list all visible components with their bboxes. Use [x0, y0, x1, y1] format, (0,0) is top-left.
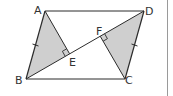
label-D: D	[145, 5, 153, 18]
label-A: A	[34, 4, 42, 17]
label-C: C	[125, 74, 133, 87]
triangle-CDF	[100, 11, 144, 79]
geometry-diagram: A B C D E F	[0, 0, 173, 96]
triangle-ABE	[26, 11, 70, 79]
label-F: F	[96, 25, 102, 38]
label-B: B	[15, 74, 23, 87]
label-E: E	[69, 56, 76, 69]
